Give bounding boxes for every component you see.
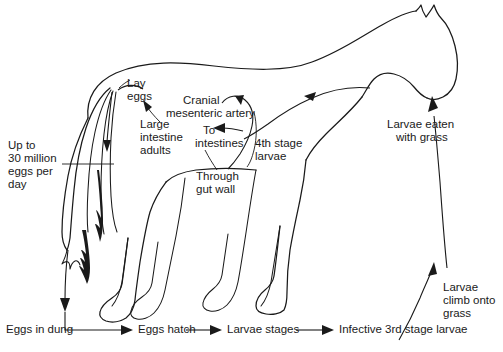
label-to-intestines-line1: To bbox=[203, 124, 215, 137]
to-intestines-arrow-path bbox=[222, 128, 243, 131]
horse-tail-dark-streak bbox=[95, 170, 103, 242]
label-cranial-line1: Cranial bbox=[183, 94, 219, 107]
eggs-in-dung-drop-line bbox=[65, 250, 68, 300]
label-eggs-per-day-line2: 30 million bbox=[8, 152, 57, 165]
label-eggs-per-day-line4: day bbox=[8, 178, 27, 191]
label-cranial-line2: mesenteric artery bbox=[166, 107, 255, 120]
label-eggs-per-day-line3: eggs per bbox=[8, 165, 53, 178]
label-lay-eggs-line2: eggs bbox=[127, 90, 152, 103]
larvae-climb-arrowhead bbox=[428, 262, 437, 276]
horse-tail-outer bbox=[67, 88, 110, 250]
horse-hindleg-far-front bbox=[131, 178, 185, 319]
flow-arrowhead-to-eggs-hatch bbox=[121, 325, 133, 335]
lifecycle-diagram: Lay eggs Large intestine adults Cranial … bbox=[0, 0, 503, 352]
flow-arrowhead-to-infective bbox=[322, 325, 334, 335]
label-large-intestine-line1: Large bbox=[140, 118, 169, 131]
eggs-in-dung-arrowhead bbox=[60, 298, 70, 312]
horse-illustration bbox=[0, 0, 503, 352]
label-large-intestine-line3: adults bbox=[140, 144, 171, 157]
label-large-intestine-line2: intestine bbox=[140, 131, 183, 144]
label-fourth-stage-line1: 4th stage bbox=[255, 137, 302, 150]
flow-arrowhead-to-larvae-stages bbox=[210, 325, 222, 335]
cranial-artery-arrowhead bbox=[235, 95, 244, 105]
label-larvae-eaten-line1: Larvae eaten bbox=[387, 118, 454, 131]
flow-step-infective-3rd-stage-larvae: Infective 3rd stage larvae bbox=[339, 323, 468, 336]
through-gut-wall-leader bbox=[205, 150, 217, 170]
label-to-intestines-line2: intestines bbox=[195, 137, 244, 150]
horse-muzzle-jaw bbox=[362, 73, 427, 98]
horse-tail-tip-wisp-a bbox=[62, 250, 80, 269]
horse-foreleg-far bbox=[261, 226, 280, 306]
label-larvae-eaten-line2: with grass bbox=[396, 131, 448, 144]
horse-foreleg-near bbox=[256, 160, 306, 314]
label-eggs-per-day-line1: Up to bbox=[8, 139, 36, 152]
label-larvae-climb-line1: Larvae bbox=[443, 281, 478, 294]
horse-head-ears bbox=[416, 5, 457, 99]
flow-step-larvae-stages: Larvae stages bbox=[227, 323, 299, 336]
internal-eggs-down-arrowhead bbox=[103, 140, 111, 152]
neck-migration-arrowhead bbox=[304, 92, 316, 101]
label-lay-eggs-line1: Lay bbox=[127, 77, 146, 90]
horse-neck-underline bbox=[306, 97, 362, 160]
label-larvae-climb-line3: grass bbox=[443, 307, 471, 320]
label-larvae-climb-line2: climb onto bbox=[443, 294, 495, 307]
label-fourth-stage-line2: larvae bbox=[255, 150, 286, 163]
label-through-gut-line2: gut wall bbox=[196, 183, 235, 196]
flow-corner-line bbox=[65, 312, 122, 330]
label-through-gut-line1: Through bbox=[196, 170, 239, 183]
horse-tail-tip-dark bbox=[79, 230, 90, 284]
flow-step-eggs-in-dung: Eggs in dung bbox=[6, 323, 73, 336]
flow-step-eggs-hatch: Eggs hatch bbox=[138, 323, 196, 336]
horse-tail-inner-right2 bbox=[110, 92, 117, 232]
